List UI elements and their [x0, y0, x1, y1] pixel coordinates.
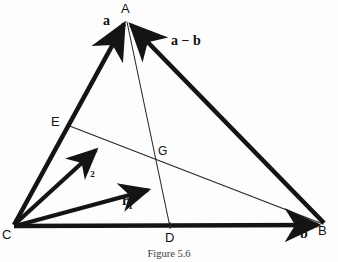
vector-a-segment	[14, 24, 124, 225]
vector-label-a-minus-b: a − b	[171, 34, 201, 48]
triangle-diagram-svg	[0, 0, 338, 262]
figure-5-6: A a a − b E G r2 r1 C D b B Figure 5.6	[0, 0, 338, 262]
figure-caption: Figure 5.6	[0, 248, 338, 259]
vector-label-r1-subscript: 1	[128, 201, 133, 211]
vector-b-segment	[14, 225, 318, 226]
vector-label-b: b	[300, 227, 308, 241]
segment-A-to-D	[127, 22, 170, 227]
vector-label-r1: r1	[122, 194, 133, 211]
vertex-label-B: B	[318, 224, 327, 237]
vertex-label-A: A	[121, 2, 130, 15]
vector-label-r2: r2	[84, 162, 95, 179]
vertex-label-G: G	[158, 145, 167, 157]
segment-E-to-B	[67, 125, 323, 224]
vertex-label-D: D	[165, 231, 174, 244]
vector-label-r2-subscript: 2	[90, 169, 95, 179]
vertex-label-E: E	[51, 115, 60, 128]
vector-a-minus-b-segment	[131, 25, 324, 223]
vector-label-a: a	[103, 14, 110, 28]
vertex-label-C: C	[2, 228, 11, 241]
